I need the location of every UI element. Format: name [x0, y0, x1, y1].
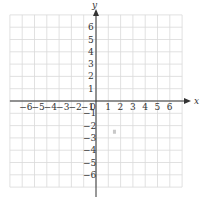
x-tick-label: 6 [167, 102, 173, 112]
y-tick-label: 6 [88, 22, 94, 32]
x-axis-label: x [194, 96, 199, 106]
y-tick-label: 2 [88, 71, 94, 81]
y-tick-label: 5 [88, 35, 94, 45]
axes: xy [10, 0, 199, 197]
coordinate-plane: xy −6−5−4−3−2−1123456654321−1−2−3−4−5−60 [0, 0, 201, 210]
x-tick-label: 1 [105, 102, 111, 112]
faint-mark [113, 130, 116, 134]
y-tick-label: −5 [83, 158, 97, 168]
y-tick-label: −2 [83, 121, 96, 131]
y-tick-label: −3 [83, 133, 97, 143]
x-axis-arrow-icon [184, 98, 191, 104]
plotted-marks [113, 130, 116, 134]
x-tick-label: 4 [142, 102, 148, 112]
y-axis-label: y [91, 0, 98, 10]
x-tick-label: −2 [68, 102, 81, 112]
origin-label: 0 [90, 102, 96, 112]
x-tick-label: 2 [118, 102, 124, 112]
x-tick-label: 5 [155, 102, 161, 112]
y-tick-label: 1 [88, 84, 94, 94]
y-tick-label: −6 [83, 170, 97, 180]
y-tick-label: 3 [88, 59, 94, 69]
y-tick-label: −4 [83, 145, 97, 155]
y-tick-label: 4 [88, 47, 94, 57]
y-axis-arrow-icon [93, 9, 99, 16]
x-tick-label: 3 [130, 102, 136, 112]
